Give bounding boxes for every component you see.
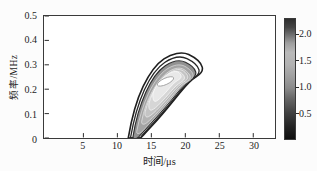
contour-svg <box>44 16 275 138</box>
x-tick-label: 5 <box>80 140 85 152</box>
colorbar-tick-labels: 2.01.51.00.5 <box>299 18 317 140</box>
y-tick-label: 0.4 <box>25 34 38 45</box>
colorbar-tick-label: 1.0 <box>299 81 312 92</box>
x-axis-label: 时间/μs <box>43 153 276 168</box>
x-tick-label: 15 <box>146 140 156 152</box>
y-tick-label: 0.5 <box>25 10 38 21</box>
colorbar <box>284 18 296 140</box>
colorbar-tick-label: 1.5 <box>299 55 312 66</box>
y-tick-label: 0.2 <box>25 84 38 95</box>
y-tick-label: 0.3 <box>25 59 38 70</box>
x-tick-label: 25 <box>215 140 225 152</box>
y-tick-labels: 00.10.20.30.40.5 <box>0 15 40 139</box>
y-tick-label: 0.1 <box>25 109 38 120</box>
plot-area <box>43 15 276 139</box>
x-tick-labels: 51015202530 <box>43 140 276 153</box>
colorbar-tick-label: 2.0 <box>299 28 312 39</box>
y-tick-label: 0 <box>32 134 37 145</box>
x-tick-label: 20 <box>181 140 191 152</box>
figure: 频率/MHz 00.10.20.30.40.5 51015202530 时间/μ… <box>0 0 317 171</box>
x-tick-label: 10 <box>112 140 122 152</box>
x-tick-label: 30 <box>249 140 259 152</box>
colorbar-tick-label: 0.5 <box>299 108 312 119</box>
